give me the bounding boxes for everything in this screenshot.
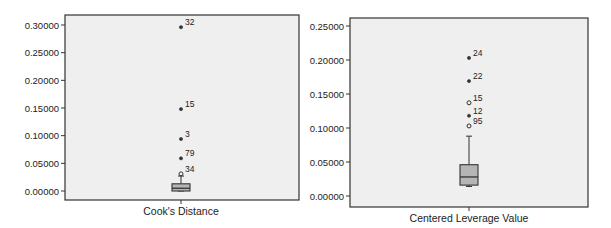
- y-tick-label: 0.05000: [310, 157, 344, 168]
- y-tick-label: 0.00000: [25, 186, 59, 197]
- outlier-label: 24: [473, 48, 483, 58]
- outlier-marker-extreme: [179, 108, 182, 111]
- outlier-marker-extreme: [467, 114, 470, 117]
- outlier-marker-extreme: [179, 26, 182, 29]
- outlier-label: 12: [473, 106, 483, 116]
- y-tick-label: 0.05000: [25, 158, 59, 169]
- outlier-marker-extreme: [179, 157, 182, 160]
- y-tick-label: 0.20000: [310, 55, 344, 66]
- iqr-box: [460, 165, 478, 185]
- x-axis-title: Cook's Distance: [143, 205, 219, 217]
- cooks-distance-svg: 0.000000.050000.100000.150000.200000.250…: [0, 0, 305, 228]
- y-tick-label: 0.15000: [25, 103, 59, 114]
- outlier-marker-extreme: [467, 56, 470, 59]
- iqr-box: [172, 184, 190, 191]
- y-tick-label: 0.00000: [310, 191, 344, 202]
- centered-leverage-svg: 0.000000.050000.100000.150000.200000.250…: [285, 0, 611, 228]
- y-tick-label: 0.30000: [25, 20, 59, 31]
- y-tick-label: 0.10000: [310, 123, 344, 134]
- outlier-label: 3: [185, 129, 190, 139]
- outlier-marker-extreme: [467, 79, 470, 82]
- y-tick-label: 0.20000: [25, 75, 59, 86]
- outlier-marker-extreme: [179, 137, 182, 140]
- y-tick-label: 0.25000: [25, 47, 59, 58]
- outlier-label: 15: [473, 93, 483, 103]
- outlier-label: 22: [473, 71, 483, 81]
- outlier-label: 15: [185, 99, 195, 109]
- cooks-distance-boxplot: 0.000000.050000.100000.150000.200000.250…: [0, 0, 305, 228]
- y-tick-label: 0.25000: [310, 21, 344, 32]
- y-tick-label: 0.15000: [310, 89, 344, 100]
- x-axis-title: Centered Leverage Value: [410, 212, 529, 224]
- outlier-label: 32: [185, 17, 195, 27]
- outlier-label: 34: [185, 164, 195, 174]
- y-tick-label: 0.10000: [25, 130, 59, 141]
- centered-leverage-boxplot: 0.000000.050000.100000.150000.200000.250…: [285, 0, 611, 228]
- outlier-label: 79: [185, 148, 195, 158]
- outlier-label: 95: [473, 116, 483, 126]
